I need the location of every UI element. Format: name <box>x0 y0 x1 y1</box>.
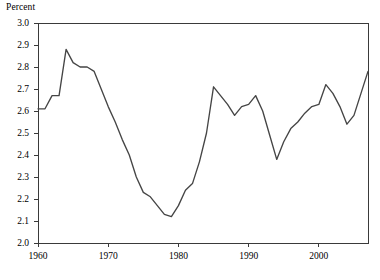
y-tick-label: 2.9 <box>17 40 29 50</box>
y-tick-label: 2.2 <box>17 194 29 204</box>
x-tick-label: 1960 <box>29 251 48 261</box>
x-axis-tick-marks <box>38 243 319 247</box>
x-tick-label: 1970 <box>99 251 118 261</box>
data-series-line <box>38 49 368 216</box>
x-tick-label: 2000 <box>309 251 328 261</box>
y-axis-tick-marks <box>34 23 38 243</box>
y-tick-label: 2.7 <box>17 84 29 94</box>
x-tick-label: 1980 <box>169 251 188 261</box>
y-tick-label: 2.1 <box>17 216 29 226</box>
y-tick-label: 2.6 <box>17 106 29 116</box>
y-axis-tick-labels: 3.02.92.82.72.62.52.42.32.22.12.0 <box>17 18 29 248</box>
y-tick-label: 2.5 <box>17 128 29 138</box>
line-chart-plot: 3.02.92.82.72.62.52.42.32.22.12.0 196019… <box>0 0 380 280</box>
y-tick-label: 2.8 <box>17 62 29 72</box>
y-tick-label: 2.4 <box>17 150 29 160</box>
y-tick-label: 2.0 <box>17 238 29 248</box>
x-tick-label: 1990 <box>239 251 258 261</box>
axis-frame <box>38 23 368 243</box>
y-tick-label: 3.0 <box>17 18 29 28</box>
chart-container: Percent 3.02.92.82.72.62.52.42.32.22.12.… <box>0 0 380 280</box>
x-axis-tick-labels: 19601970198019902000 <box>29 251 329 261</box>
y-tick-label: 2.3 <box>17 172 29 182</box>
